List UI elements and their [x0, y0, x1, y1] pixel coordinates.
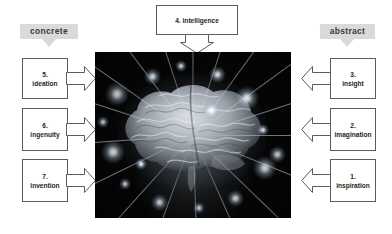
light-ray — [192, 52, 193, 136]
category-badge-concrete-tail — [42, 39, 56, 47]
step-box-insight-label: insight — [342, 79, 364, 88]
step-box-ingenuity[interactable]: 6. ingenuity — [22, 108, 68, 151]
glow-node — [175, 60, 187, 72]
glow-node — [97, 116, 109, 128]
brain-image — [95, 52, 291, 218]
step-box-ideation-label: ideation — [32, 79, 57, 88]
arrow-left-insight — [301, 63, 331, 94]
arrow-right-invention — [66, 165, 96, 196]
light-ray — [193, 135, 291, 136]
step-box-inspiration[interactable]: 1. inspiration — [330, 159, 376, 202]
step-box-inspiration-number: 1. — [350, 172, 356, 181]
category-badge-abstract: abstract — [320, 24, 375, 39]
step-box-invention-label: invention — [30, 181, 59, 190]
step-box-ideation[interactable]: 5. ideation — [22, 58, 68, 99]
arrow-right-ingenuity — [66, 114, 96, 145]
glow-node — [209, 66, 226, 83]
glow-node — [151, 194, 168, 211]
step-box-invention-number: 7. — [42, 172, 48, 181]
glow-node — [101, 140, 125, 164]
arrow-left-inspiration — [301, 165, 331, 196]
glow-node — [203, 102, 220, 119]
category-badge-abstract-label: abstract — [330, 26, 365, 36]
step-box-ingenuity-number: 6. — [42, 121, 48, 130]
step-box-invention[interactable]: 7. invention — [22, 159, 68, 202]
step-box-intelligence-label: 4. intelligence — [175, 16, 219, 25]
step-box-imagination-number: 2. — [350, 121, 356, 130]
glow-node — [119, 178, 131, 190]
step-box-insight-number: 3. — [350, 70, 356, 79]
step-box-imagination[interactable]: 2. imagination — [330, 108, 376, 151]
step-box-ingenuity-label: ingenuity — [30, 130, 59, 139]
glow-node — [269, 146, 286, 163]
glow-node — [105, 82, 129, 106]
step-box-intelligence[interactable]: 4. intelligence — [156, 5, 238, 35]
category-badge-concrete-label: concrete — [30, 26, 68, 36]
glow-node — [235, 86, 259, 110]
glow-node — [144, 68, 161, 85]
arrow-down-intelligence — [180, 34, 214, 54]
diagram-canvas: concrete abstract 4. intelligence 5. ide… — [0, 0, 392, 234]
step-box-insight[interactable]: 3. insight — [330, 58, 376, 99]
step-box-inspiration-label: inspiration — [336, 181, 370, 190]
arrow-right-ideation — [66, 63, 96, 94]
category-badge-abstract-tail — [340, 39, 354, 47]
glow-node — [193, 202, 205, 214]
category-badge-concrete: concrete — [20, 24, 78, 39]
step-box-imagination-label: imagination — [335, 130, 372, 139]
glow-node — [227, 190, 244, 207]
arrow-left-imagination — [301, 114, 331, 145]
step-box-ideation-number: 5. — [42, 70, 48, 79]
glow-node — [135, 158, 147, 170]
glow-node — [257, 124, 269, 136]
